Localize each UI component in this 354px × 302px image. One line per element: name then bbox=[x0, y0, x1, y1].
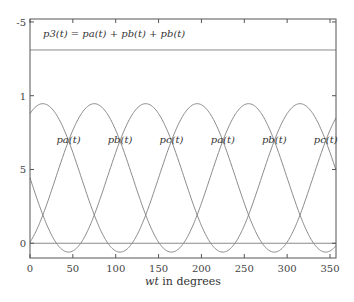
curve-label: pc(t) bbox=[160, 134, 184, 145]
curve-label: pb(t) bbox=[262, 134, 287, 145]
y-tick-label: 0 bbox=[20, 238, 26, 249]
y-tick-label: 1 bbox=[20, 91, 26, 102]
x-tick-label: 250 bbox=[235, 263, 254, 274]
y-tick-label: -5 bbox=[16, 17, 26, 28]
curve-label: pb(t) bbox=[108, 134, 133, 145]
x-tick-label: 150 bbox=[149, 263, 168, 274]
x-tick-label: 0 bbox=[27, 263, 33, 274]
x-tick-label: 350 bbox=[320, 263, 339, 274]
curve-label: pa(t) bbox=[211, 134, 235, 145]
curves-layer bbox=[30, 50, 336, 252]
series-line-1 bbox=[30, 104, 336, 252]
x-tick-label: 200 bbox=[192, 263, 211, 274]
equation-label: p3(t) = pa(t) + pb(t) + pb(t) bbox=[43, 28, 185, 39]
y-tick-label: 5 bbox=[20, 164, 26, 175]
curve-label: pa(t) bbox=[56, 134, 80, 145]
x-axis-title: wt in degrees bbox=[145, 275, 221, 288]
x-tick-label: 50 bbox=[66, 263, 79, 274]
series-line-0 bbox=[30, 104, 336, 252]
x-axis-title-italic: wt bbox=[145, 275, 159, 288]
x-tick-label: 300 bbox=[278, 263, 297, 274]
curve-label: pc(t) bbox=[314, 134, 338, 145]
x-tick-label: 100 bbox=[106, 263, 125, 274]
power-chart: 050100150200250300350-5150 pa(t)pb(t)pc(… bbox=[0, 0, 354, 302]
text-labels: pa(t)pb(t)pc(t)pa(t)pb(t)pc(t) bbox=[56, 134, 337, 145]
series-line-2 bbox=[30, 104, 336, 252]
x-axis-title-rest: in degrees bbox=[159, 275, 221, 288]
